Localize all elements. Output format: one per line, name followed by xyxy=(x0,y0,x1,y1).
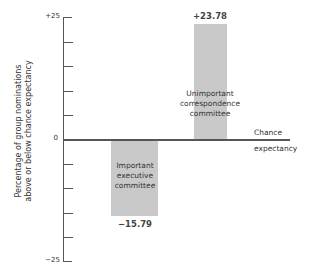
y-tick xyxy=(63,213,73,214)
y-tick xyxy=(63,115,73,116)
chance-label: Chance xyxy=(254,128,282,137)
y-axis-title-line-1: Percentage of group nominations xyxy=(14,41,24,221)
y-tick xyxy=(63,237,73,238)
bar-label-line: executive xyxy=(100,171,170,181)
y-tick xyxy=(63,91,73,92)
bar-unimportant-correspondence-committee xyxy=(194,24,227,139)
y-tick xyxy=(63,42,73,43)
bar-label-line: Important xyxy=(100,161,170,171)
expectancy-label: expectancy xyxy=(254,144,297,153)
bar-label-unimportant: Unimportant correspondence committee xyxy=(170,89,250,119)
y-tick xyxy=(63,261,72,262)
bar-label-line: committee xyxy=(100,181,170,191)
y-tick xyxy=(63,17,72,18)
chance-expectancy-line xyxy=(63,139,290,141)
bar-label-important: Important executive committee xyxy=(100,161,170,191)
y-tick xyxy=(63,188,73,189)
bar-label-line: Unimportant xyxy=(170,89,250,99)
y-tick-label-top: +25 xyxy=(36,12,60,20)
y-tick xyxy=(63,164,73,165)
value-label-unimportant: +23.78 xyxy=(180,11,240,21)
y-axis-title-line-2: above or below chance expectancy xyxy=(24,41,34,221)
y-tick-label-zero: 0 xyxy=(34,134,58,142)
bar-label-line: committee xyxy=(170,109,250,119)
bar-label-line: correspondence xyxy=(170,99,250,109)
y-axis-title: Percentage of group nominations above or… xyxy=(14,41,34,221)
y-tick-label-bottom: −25 xyxy=(36,256,60,264)
value-label-important: −15.79 xyxy=(105,219,165,229)
y-tick xyxy=(63,66,73,67)
